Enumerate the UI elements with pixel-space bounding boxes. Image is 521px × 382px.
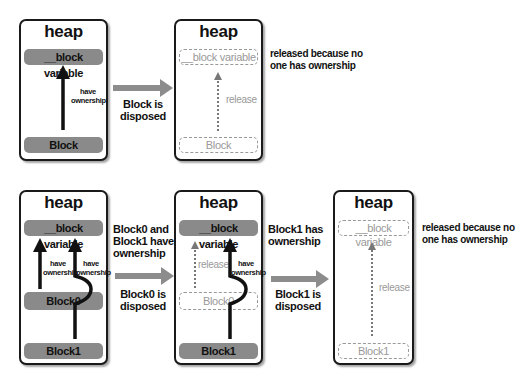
transition-arrow-icon-2 <box>271 270 329 288</box>
ownership-arrow-block1 <box>75 245 91 339</box>
transition-arrow-icon <box>113 79 173 97</box>
arrows-overlay <box>0 0 521 382</box>
ownership-arrow-block1 <box>230 245 246 339</box>
transition-arrow-icon-1 <box>115 267 174 285</box>
